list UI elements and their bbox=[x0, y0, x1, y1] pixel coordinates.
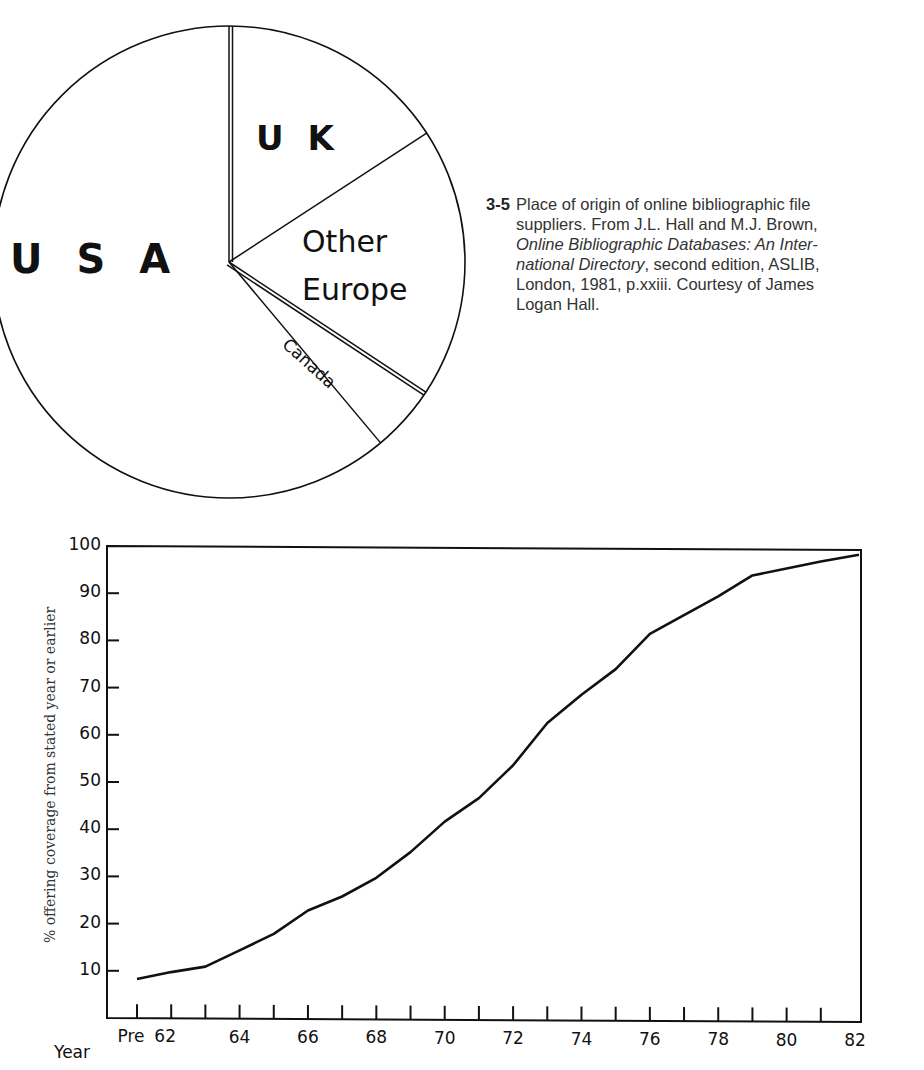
y-tick-label: 40 bbox=[61, 817, 101, 837]
x-axis-label: Year bbox=[54, 1042, 90, 1062]
caption-line: Place of origin of online bibliographic … bbox=[516, 194, 916, 214]
x-tick-label: 72 bbox=[502, 1028, 524, 1048]
y-tick-label: 20 bbox=[61, 912, 101, 932]
y-tick-label: 60 bbox=[61, 723, 101, 743]
y-tick-label: 100 bbox=[61, 534, 101, 554]
caption-line: Online Bibliographic Databases: An Inter… bbox=[516, 234, 916, 254]
figure-number: 3-5 bbox=[486, 194, 510, 214]
caption-line: national Directory, second edition, ASLI… bbox=[516, 254, 916, 274]
x-tick-label: 70 bbox=[434, 1028, 456, 1048]
caption-book-title-cont: national Directory bbox=[516, 255, 644, 273]
caption-line: London, 1981, p.xxiii. Courtesy of James bbox=[516, 274, 916, 294]
pie-label-other-europe-line2: Europe bbox=[302, 266, 408, 314]
x-tick-label: 62 bbox=[154, 1026, 176, 1046]
pie-label-other-europe: Other Europe bbox=[302, 218, 408, 314]
figure-caption: 3-5 Place of origin of online bibliograp… bbox=[516, 194, 916, 314]
x-tick-label: 74 bbox=[571, 1029, 593, 1049]
y-tick-label: 80 bbox=[61, 628, 101, 648]
x-tick-label: 64 bbox=[229, 1027, 251, 1047]
y-tick-label: 90 bbox=[61, 581, 101, 601]
y-tick-label: 50 bbox=[61, 770, 101, 790]
pie-label-other-europe-line1: Other bbox=[302, 218, 408, 266]
caption-line: Logan Hall. bbox=[516, 294, 916, 314]
pie-chart: U S A U K Other Europe Canada bbox=[0, 0, 480, 500]
pie-label-usa: U S A bbox=[10, 236, 180, 282]
pie-label-uk: U K bbox=[256, 118, 340, 158]
plot-frame bbox=[107, 546, 861, 1022]
caption-edition: , second edition, ASLIB, bbox=[644, 255, 819, 273]
x-tick-label: 68 bbox=[366, 1027, 388, 1047]
y-tick-label: 70 bbox=[61, 676, 101, 696]
x-tick-label: 80 bbox=[776, 1030, 798, 1050]
caption-book-title: Online Bibliographic Databases: An Inter… bbox=[516, 235, 818, 253]
x-tick-label: Pre bbox=[117, 1026, 144, 1046]
x-tick-label: 82 bbox=[844, 1030, 866, 1050]
caption-line: suppliers. From J.L. Hall and M.J. Brown… bbox=[516, 214, 916, 234]
y-axis-label: % offering coverage from stated year or … bbox=[42, 607, 58, 943]
y-tick-label: 30 bbox=[61, 864, 101, 884]
data-line bbox=[137, 555, 859, 979]
x-tick-label: 66 bbox=[297, 1027, 319, 1047]
x-tick-label: 76 bbox=[639, 1029, 661, 1049]
x-tick-label: 78 bbox=[707, 1029, 729, 1049]
y-tick-label: 10 bbox=[61, 959, 101, 979]
